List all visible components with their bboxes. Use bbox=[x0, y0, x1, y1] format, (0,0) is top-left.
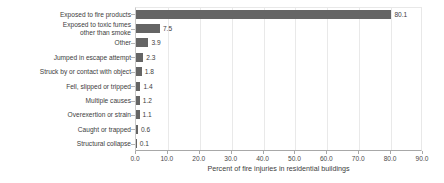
bar bbox=[136, 125, 138, 134]
bar bbox=[136, 38, 148, 47]
category-label: Exposed to toxic fumes other than smoke bbox=[6, 21, 131, 35]
bar-value-label: 2.3 bbox=[146, 53, 155, 62]
y-axis-tick bbox=[131, 29, 135, 30]
bar-row: Struck by or contact with object1.8 bbox=[0, 65, 444, 79]
bar-row: Caught or trapped0.6 bbox=[0, 122, 444, 136]
y-axis-tick bbox=[131, 115, 135, 116]
category-label: Jumped in escape attempt bbox=[6, 54, 131, 61]
bar bbox=[136, 24, 160, 33]
bar-value-label: 80.1 bbox=[394, 10, 407, 19]
y-axis-tick bbox=[131, 129, 135, 130]
x-axis-tick-label: 70.0 bbox=[352, 154, 365, 163]
bar-value-label: 7.5 bbox=[163, 24, 172, 33]
category-label: Fell, slipped or tripped bbox=[6, 83, 131, 90]
x-axis-tick-label: 60.0 bbox=[320, 154, 333, 163]
bar-value-label: 0.1 bbox=[140, 139, 149, 148]
x-axis-tick-label: 40.0 bbox=[256, 154, 269, 163]
category-label: Other bbox=[6, 39, 131, 46]
category-label: Overexertion or strain bbox=[6, 111, 131, 118]
bar-row: Multiple causes1.2 bbox=[0, 93, 444, 107]
bar-value-label: 0.6 bbox=[141, 125, 150, 134]
bar bbox=[136, 139, 137, 148]
x-axis: 0.010.020.030.040.050.060.070.080.090.0 bbox=[0, 151, 444, 163]
category-label: Multiple causes bbox=[6, 97, 131, 104]
bar-row: Exposed to fire products80.1 bbox=[0, 7, 444, 21]
bar bbox=[136, 53, 143, 62]
category-label: Struck by or contact with object bbox=[6, 68, 131, 75]
x-axis-title: Percent of fire injuries in residential … bbox=[135, 164, 422, 173]
bar bbox=[136, 96, 140, 105]
bar-value-label: 1.2 bbox=[143, 96, 152, 105]
x-axis-tick-label: 30.0 bbox=[224, 154, 237, 163]
bar-value-label: 1.8 bbox=[145, 67, 154, 76]
x-axis-tick-label: 90.0 bbox=[416, 154, 429, 163]
bar-value-label: 1.4 bbox=[143, 82, 152, 91]
bar bbox=[136, 67, 142, 76]
bar-row: Structural collapse0.1 bbox=[0, 137, 444, 151]
bar-row: Fell, slipped or tripped1.4 bbox=[0, 79, 444, 93]
bar-rows: Exposed to fire products80.1Exposed to t… bbox=[0, 7, 444, 151]
horizontal-bar-chart: Exposed to fire products80.1Exposed to t… bbox=[0, 0, 444, 183]
y-axis-tick bbox=[131, 14, 135, 15]
y-axis-tick bbox=[131, 144, 135, 145]
category-label: Structural collapse bbox=[6, 140, 131, 147]
bar-row: Overexertion or strain1.1 bbox=[0, 108, 444, 122]
bar bbox=[136, 110, 140, 119]
x-axis-tick-label: 50.0 bbox=[288, 154, 301, 163]
category-label: Caught or trapped bbox=[6, 126, 131, 133]
y-axis-tick bbox=[131, 101, 135, 102]
y-axis-tick bbox=[131, 86, 135, 87]
y-axis-tick bbox=[131, 72, 135, 73]
category-label: Exposed to fire products bbox=[6, 11, 131, 18]
bar-row: Other3.9 bbox=[0, 36, 444, 50]
y-axis-tick bbox=[131, 57, 135, 58]
bar-row: Jumped in escape attempt2.3 bbox=[0, 50, 444, 64]
bar-value-label: 3.9 bbox=[151, 38, 160, 47]
x-axis-tick-label: 0.0 bbox=[130, 154, 139, 163]
bar bbox=[136, 10, 391, 19]
x-axis-tick-label: 80.0 bbox=[384, 154, 397, 163]
y-axis-tick bbox=[131, 43, 135, 44]
bar-value-label: 1.1 bbox=[143, 110, 152, 119]
x-axis-tick-label: 20.0 bbox=[192, 154, 205, 163]
bar-row: Exposed to toxic fumes other than smoke7… bbox=[0, 21, 444, 35]
x-axis-tick-label: 10.0 bbox=[160, 154, 173, 163]
bar bbox=[136, 82, 140, 91]
